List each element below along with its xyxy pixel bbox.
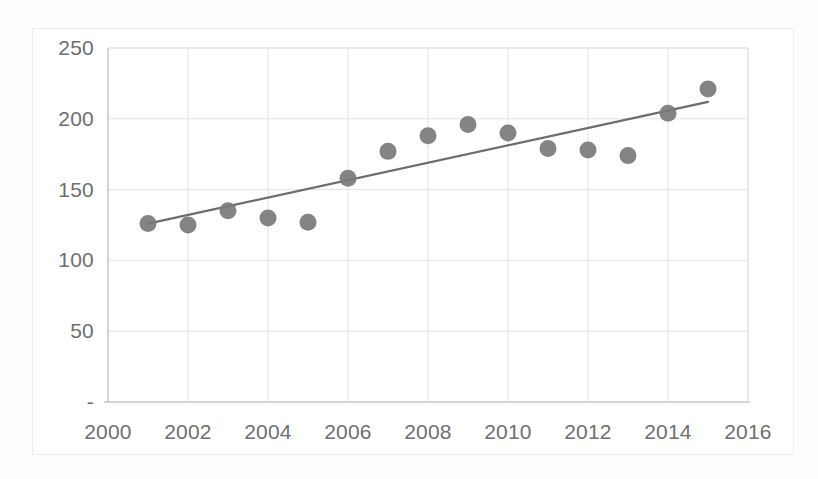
y-axis-tick-label: -: [87, 390, 94, 414]
data-point-marker: [260, 209, 277, 226]
x-axis-tick-label: 2012: [564, 420, 612, 444]
y-axis-tick-label: 200: [58, 107, 94, 131]
y-axis-tick-label: 150: [58, 178, 94, 202]
chart-plot-area: [0, 0, 818, 479]
data-point-marker: [620, 147, 637, 164]
data-point-marker: [180, 217, 197, 234]
data-point-marker: [340, 170, 357, 187]
data-point-marker: [380, 143, 397, 160]
x-axis-tick-label: 2000: [84, 420, 132, 444]
data-point-marker: [580, 141, 597, 158]
gridlines: [108, 48, 748, 402]
y-axis-tick-label: 50: [70, 319, 94, 343]
y-axis-tick-label: 250: [58, 36, 94, 60]
data-point-marker: [460, 116, 477, 133]
y-axis-tick-label: 100: [58, 248, 94, 272]
x-axis-tick-label: 2002: [164, 420, 212, 444]
x-axis-tick-label: 2014: [644, 420, 692, 444]
data-point-marker: [420, 127, 437, 144]
data-point-marker: [220, 202, 237, 219]
data-point-marker: [660, 105, 677, 122]
data-point-marker: [540, 140, 557, 157]
x-axis-tick-label: 2010: [484, 420, 532, 444]
data-point-marker: [140, 215, 157, 232]
chart-root: 25020015010050- 200020022004200620082010…: [0, 0, 818, 479]
x-axis-tick-label: 2004: [244, 420, 292, 444]
data-point-marker: [300, 214, 317, 231]
x-axis-tick-label: 2006: [324, 420, 372, 444]
data-point-marker: [500, 124, 517, 141]
data-point-marker: [700, 81, 717, 98]
x-axis-tick-label: 2008: [404, 420, 452, 444]
axis-lines: [104, 48, 750, 402]
x-axis-tick-label: 2016: [724, 420, 772, 444]
